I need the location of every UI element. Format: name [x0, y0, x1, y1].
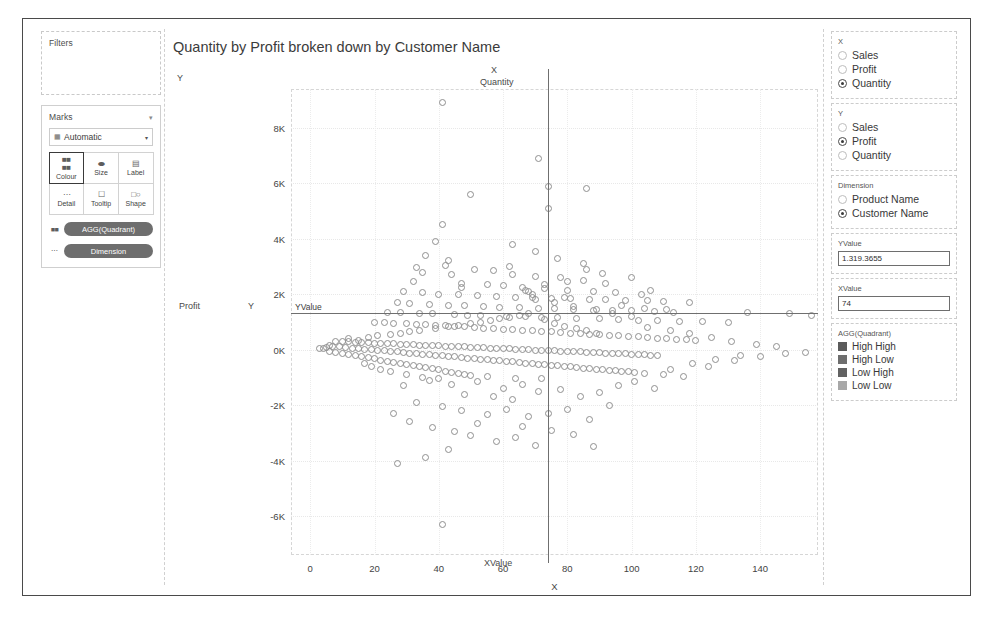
data-point[interactable]: [631, 369, 638, 376]
data-point[interactable]: [506, 314, 513, 321]
data-point[interactable]: [413, 399, 420, 406]
data-point[interactable]: [406, 418, 413, 425]
data-point[interactable]: [557, 329, 564, 336]
data-point[interactable]: [448, 381, 455, 388]
data-point[interactable]: [580, 277, 587, 284]
data-point[interactable]: [577, 393, 584, 400]
data-point[interactable]: [586, 296, 593, 303]
data-point[interactable]: [583, 185, 590, 192]
data-point[interactable]: [586, 416, 593, 423]
data-point[interactable]: [590, 443, 597, 450]
data-point[interactable]: [458, 407, 465, 414]
data-point[interactable]: [467, 191, 474, 198]
x-option-profit[interactable]: Profit: [838, 63, 950, 75]
data-point[interactable]: [445, 323, 452, 330]
data-point[interactable]: [686, 330, 693, 337]
data-point[interactable]: [474, 420, 481, 427]
data-point[interactable]: [474, 292, 481, 299]
filters-card[interactable]: Filters: [41, 31, 161, 95]
data-point[interactable]: [532, 273, 539, 280]
data-point[interactable]: [419, 269, 426, 276]
legend-item[interactable]: High High: [838, 341, 950, 352]
data-point[interactable]: [631, 378, 638, 385]
data-point[interactable]: [487, 317, 494, 324]
data-point[interactable]: [365, 334, 372, 341]
x-option-sales[interactable]: Sales: [838, 49, 950, 61]
data-point[interactable]: [599, 270, 606, 277]
data-point[interactable]: [525, 413, 532, 420]
data-point[interactable]: [467, 372, 474, 379]
data-point[interactable]: [519, 381, 526, 388]
data-point[interactable]: [406, 328, 413, 335]
data-point[interactable]: [509, 271, 516, 278]
data-point[interactable]: [654, 352, 661, 359]
data-point[interactable]: [403, 371, 410, 378]
data-point[interactable]: [426, 301, 433, 308]
data-point[interactable]: [641, 370, 648, 377]
data-point[interactable]: [480, 303, 487, 310]
legend-item[interactable]: Low High: [838, 367, 950, 378]
data-point[interactable]: [532, 248, 539, 255]
data-point[interactable]: [557, 386, 564, 393]
data-point[interactable]: [602, 280, 609, 287]
data-point[interactable]: [439, 99, 446, 106]
marks-shape-button[interactable]: □○ Shape: [118, 183, 154, 215]
data-point[interactable]: [458, 284, 465, 291]
dimension-option-customer-name[interactable]: Customer Name: [838, 207, 950, 219]
data-point[interactable]: [439, 221, 446, 228]
data-point[interactable]: [606, 402, 613, 409]
data-point[interactable]: [708, 334, 715, 341]
data-point[interactable]: [644, 334, 651, 341]
data-point[interactable]: [484, 411, 491, 418]
data-point[interactable]: [728, 338, 735, 345]
data-point[interactable]: [484, 281, 491, 288]
data-point[interactable]: [590, 288, 597, 295]
data-point[interactable]: [512, 434, 519, 441]
pill-dimension[interactable]: Dimension: [64, 244, 153, 258]
data-point[interactable]: [644, 297, 651, 304]
data-point[interactable]: [683, 336, 690, 343]
data-point[interactable]: [561, 294, 568, 301]
data-point[interactable]: [509, 241, 516, 248]
mark-type-dropdown[interactable]: ▦ Automatic ▾: [49, 128, 153, 146]
data-point[interactable]: [509, 326, 516, 333]
data-point[interactable]: [474, 378, 481, 385]
data-point[interactable]: [673, 336, 680, 343]
data-point[interactable]: [570, 431, 577, 438]
data-point[interactable]: [538, 375, 545, 382]
data-point[interactable]: [567, 295, 574, 302]
data-point[interactable]: [529, 291, 536, 298]
data-point[interactable]: [506, 263, 513, 270]
data-point[interactable]: [680, 373, 687, 380]
data-point[interactable]: [455, 291, 462, 298]
data-point[interactable]: [535, 155, 542, 162]
data-point[interactable]: [667, 366, 674, 373]
data-point[interactable]: [439, 403, 446, 410]
data-point[interactable]: [480, 325, 487, 332]
data-point[interactable]: [490, 267, 497, 274]
data-point[interactable]: [638, 291, 645, 298]
data-point[interactable]: [355, 337, 362, 344]
data-point[interactable]: [371, 319, 378, 326]
data-point[interactable]: [519, 423, 526, 430]
chevron-down-icon[interactable]: ▾: [145, 134, 148, 141]
data-point[interactable]: [500, 385, 507, 392]
data-point[interactable]: [410, 278, 417, 285]
data-point[interactable]: [500, 282, 507, 289]
dimension-option-product-name[interactable]: Product Name: [838, 193, 950, 205]
data-point[interactable]: [516, 304, 523, 311]
data-point[interactable]: [731, 357, 738, 364]
data-point[interactable]: [667, 327, 674, 334]
data-point[interactable]: [692, 337, 699, 344]
data-point[interactable]: [496, 304, 503, 311]
data-point[interactable]: [529, 327, 536, 334]
data-point[interactable]: [406, 300, 413, 307]
data-point[interactable]: [512, 294, 519, 301]
radio-icon[interactable]: [838, 123, 847, 132]
data-point[interactable]: [757, 353, 764, 360]
chevron-down-icon[interactable]: ▾: [149, 114, 153, 121]
data-point[interactable]: [522, 287, 529, 294]
data-point[interactable]: [593, 330, 600, 337]
data-point[interactable]: [503, 406, 510, 413]
data-point[interactable]: [445, 302, 452, 309]
